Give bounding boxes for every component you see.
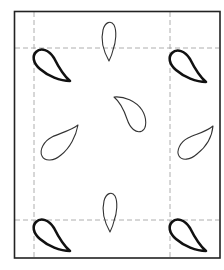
paisley-layout-diagram [0, 0, 224, 270]
